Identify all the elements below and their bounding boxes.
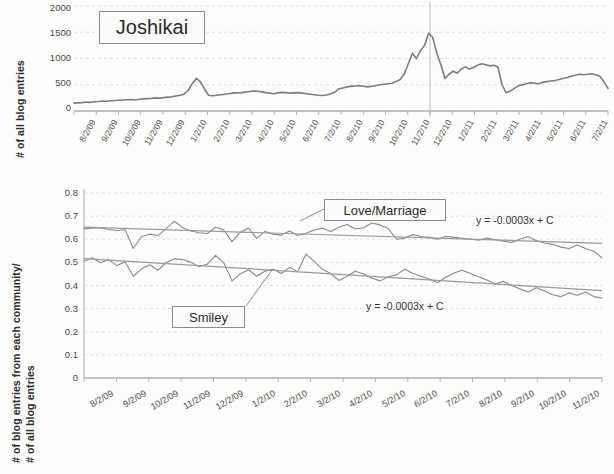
smiley-label-text: Smiley [189, 310, 228, 325]
trendline-equation-lower: y = -0.0003x + C [366, 300, 444, 312]
bottom-chart: # of blog entries from each community/ #… [0, 175, 614, 474]
love-marriage-label-text: Love/Marriage [343, 203, 426, 218]
trendline-equation-upper: y = -0.0003x + C [476, 214, 554, 226]
smiley-label-box: Smiley [172, 306, 245, 328]
joshikai-label-text: Joshikai [116, 16, 188, 39]
love-marriage-label-box: Love/Marriage [324, 199, 446, 221]
top-chart: # of all blog entries 2000 1500 1000 500… [0, 0, 614, 175]
joshikai-label-box: Joshikai [99, 11, 205, 44]
figure-page: # of all blog entries 2000 1500 1000 500… [0, 0, 614, 474]
